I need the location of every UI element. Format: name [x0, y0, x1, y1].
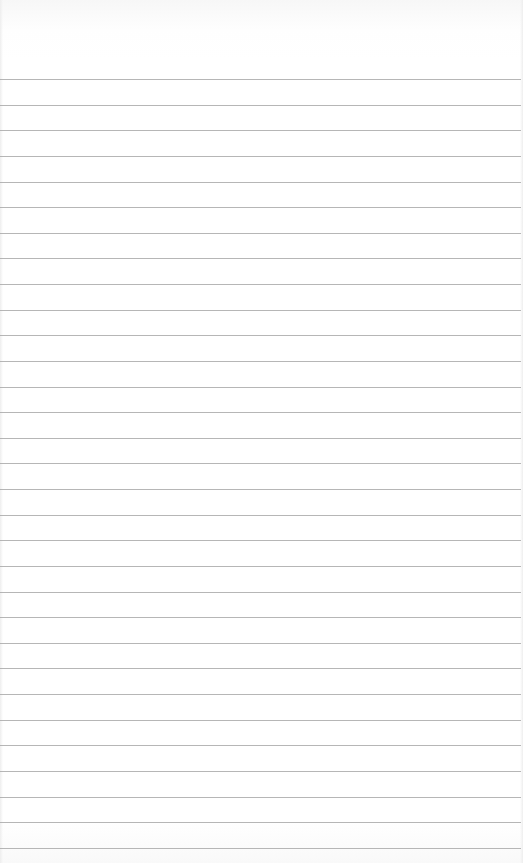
ruled-line [0, 668, 521, 669]
lined-paper-sheet [0, 0, 523, 863]
ruled-line [0, 258, 521, 259]
ruled-line [0, 412, 521, 413]
ruled-line [0, 848, 521, 849]
ruled-line [0, 515, 521, 516]
ruled-line [0, 720, 521, 721]
ruled-line [0, 387, 521, 388]
ruled-line [0, 617, 521, 618]
ruled-line [0, 233, 521, 234]
ruled-line [0, 130, 521, 131]
ruled-line [0, 105, 521, 106]
ruled-line [0, 335, 521, 336]
ruled-line [0, 592, 521, 593]
ruled-line [0, 156, 521, 157]
ruled-line [0, 643, 521, 644]
ruled-line [0, 566, 521, 567]
ruled-line [0, 207, 521, 208]
ruled-line [0, 438, 521, 439]
ruled-line [0, 489, 521, 490]
ruled-line [0, 310, 521, 311]
ruled-line [0, 771, 521, 772]
ruled-line [0, 361, 521, 362]
ruled-line [0, 745, 521, 746]
ruled-line [0, 694, 521, 695]
ruled-line [0, 284, 521, 285]
ruled-line [0, 463, 521, 464]
ruled-line [0, 182, 521, 183]
ruled-line [0, 822, 521, 823]
ruled-line [0, 797, 521, 798]
ruled-line [0, 540, 521, 541]
ruled-line [0, 79, 521, 80]
